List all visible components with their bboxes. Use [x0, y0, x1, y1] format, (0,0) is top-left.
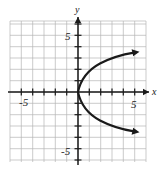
y-axis-label: y: [74, 4, 80, 15]
x-axis-label: x: [151, 86, 157, 97]
x-tick-label-positive-5: 5: [131, 98, 137, 110]
parabola-lower-branch: [78, 92, 134, 131]
parabola-upper-arrowhead: [132, 49, 140, 56]
parabola-lower-arrowhead: [132, 128, 140, 135]
coordinate-plane: -5 5 5 -5 x y: [0, 0, 164, 169]
parabola-upper-branch: [78, 53, 134, 92]
graph-figure: -5 5 5 -5 x y: [0, 0, 164, 169]
x-tick-label-negative-5: -5: [19, 96, 29, 108]
y-tick-label-positive-5: 5: [65, 30, 71, 42]
y-tick-label-negative-5: -5: [61, 145, 71, 157]
